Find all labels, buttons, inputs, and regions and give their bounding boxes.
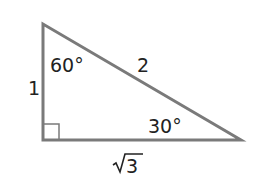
- triangle: [43, 24, 241, 140]
- angle-label-60: 60°: [50, 54, 84, 76]
- triangle-diagram: 1 2 60° 30° 3: [0, 0, 254, 183]
- radicand: 3: [126, 155, 138, 177]
- side-label-hypotenuse: 2: [137, 54, 149, 76]
- side-label-short-leg: 1: [28, 77, 40, 99]
- side-label-long-leg: 3: [113, 154, 143, 177]
- angle-label-30: 30°: [148, 115, 182, 137]
- right-angle-marker: [43, 124, 59, 140]
